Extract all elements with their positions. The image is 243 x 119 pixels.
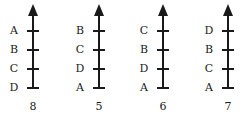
tick-label: C <box>137 25 151 37</box>
scale-number: 8 <box>25 101 41 113</box>
tick-label: A <box>7 25 21 37</box>
tick <box>93 49 105 51</box>
tick-label: B <box>202 44 216 56</box>
tick <box>27 49 39 51</box>
tick-label: D <box>137 63 151 75</box>
tick <box>222 49 234 51</box>
tick <box>93 30 105 32</box>
tick-label: D <box>73 63 87 75</box>
scale-3: C B D A 6 <box>143 0 183 119</box>
tick <box>157 30 169 32</box>
tick <box>222 68 234 70</box>
tick-label: D <box>202 25 216 37</box>
tick <box>222 30 234 32</box>
tick-label: C <box>73 44 87 56</box>
tick <box>157 49 169 51</box>
tick <box>222 87 234 89</box>
scale-1: A B C D 8 <box>13 0 53 119</box>
tick <box>157 68 169 70</box>
scale-2: B C D A 5 <box>79 0 119 119</box>
tick-label: A <box>73 82 87 94</box>
tick <box>27 68 39 70</box>
tick-label: A <box>137 82 151 94</box>
scale-number: 5 <box>91 101 107 113</box>
tick <box>93 68 105 70</box>
tick-label: B <box>73 25 87 37</box>
tick <box>157 87 169 89</box>
tick-label: A <box>202 82 216 94</box>
tick-label: C <box>7 63 21 75</box>
tick <box>27 30 39 32</box>
tick-label: D <box>7 82 21 94</box>
tick <box>27 87 39 89</box>
scale-number: 7 <box>220 101 236 113</box>
tick-label: B <box>7 44 21 56</box>
scale-4: D B C A 7 <box>208 0 243 119</box>
tick-label: C <box>202 63 216 75</box>
scale-number: 6 <box>155 101 171 113</box>
tick <box>93 87 105 89</box>
tick-label: B <box>137 44 151 56</box>
